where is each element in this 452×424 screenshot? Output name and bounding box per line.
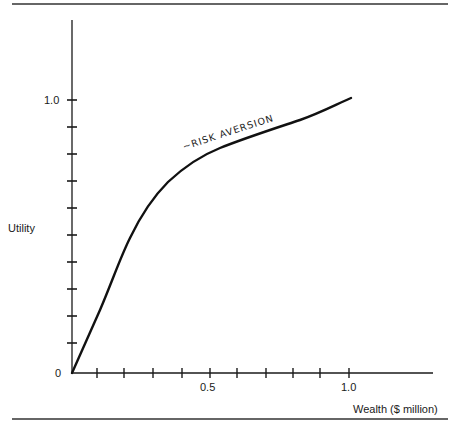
y-axis-label: Utility — [8, 222, 35, 234]
y-tick-label-1: 1.0 — [44, 94, 59, 106]
x-tick-label-1: 1.0 — [341, 381, 356, 393]
x-axis-label: Wealth ($ million) — [353, 403, 438, 415]
utility-chart: ~RISK AVERSION — [0, 0, 452, 424]
origin-label: 0 — [55, 367, 61, 379]
x-tick-label-0-5: 0.5 — [200, 381, 215, 393]
